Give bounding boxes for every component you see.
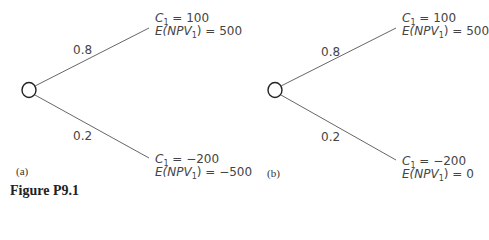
panel-label: (b) [267, 167, 280, 179]
panel-label: (a) [16, 165, 28, 177]
outcome-expected-npv: E(NPV1) = 0 [402, 168, 474, 185]
branch-line-a-upper [35, 28, 149, 86]
chance-node-b [268, 83, 282, 98]
outcome-expected-npv: E(NPV1) = 500 [402, 25, 489, 42]
figure-caption: Figure P9.1 [10, 183, 79, 199]
probability-label: 0.2 [73, 129, 92, 143]
outcome-expected-npv: E(NPV1) = −500 [155, 166, 252, 183]
branch-line-a-lower [35, 95, 149, 158]
probability-label: 0.8 [321, 45, 340, 59]
outcome-expected-npv: E(NPV1) = 500 [155, 25, 242, 42]
probability-label: 0.8 [73, 43, 92, 57]
probability-label: 0.2 [321, 130, 340, 144]
branch-line-b-lower [281, 95, 396, 160]
chance-node-a [22, 83, 36, 98]
